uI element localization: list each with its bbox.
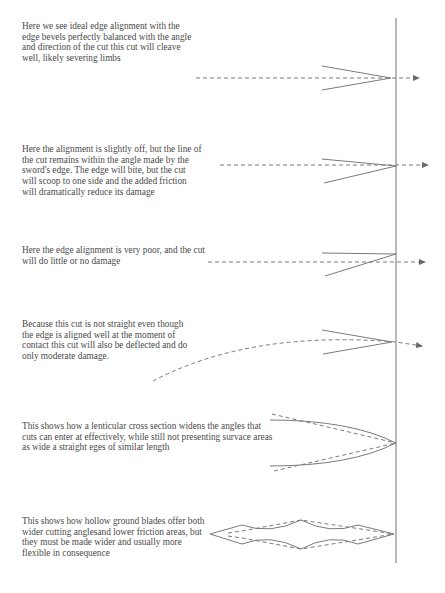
figure-slightly-off xyxy=(220,159,428,183)
figure-hollow-ground xyxy=(210,520,394,549)
edge-bevel-icon xyxy=(322,159,396,183)
lenticular-edge-bottom-icon xyxy=(270,443,396,466)
lenticular-edge-top-icon xyxy=(270,420,396,443)
flat-bevel-bottom-icon xyxy=(228,534,394,549)
straight-edge-top-icon xyxy=(272,414,396,443)
edge-bevel-icon xyxy=(322,330,392,354)
edge-alignment-diagram xyxy=(0,0,445,593)
edge-bevel-icon xyxy=(322,253,396,276)
flat-bevel-top-icon xyxy=(228,520,394,534)
curved-cut-path-arrow-icon xyxy=(153,340,422,381)
figure-curved-cut xyxy=(153,330,422,381)
figure-ideal-alignment xyxy=(196,66,419,90)
straight-edge-bottom-icon xyxy=(274,443,396,471)
hollow-ground-cross-section-icon xyxy=(210,520,394,549)
figure-lenticular xyxy=(270,414,396,471)
figure-very-poor xyxy=(208,253,425,276)
